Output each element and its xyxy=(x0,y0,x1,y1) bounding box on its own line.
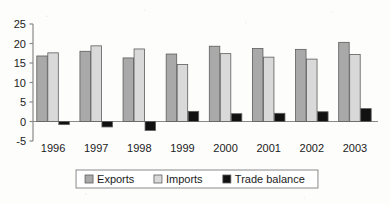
bar xyxy=(209,46,220,121)
x-axis: 19961997199819992000200120022003 xyxy=(41,142,367,154)
plot-area: -50510152025 199619971998199920002001200… xyxy=(0,0,390,204)
bar xyxy=(339,42,350,121)
x-axis-tick-label: 2001 xyxy=(256,142,280,154)
legend-label: Exports xyxy=(97,173,135,185)
chart-svg: -50510152025 199619971998199920002001200… xyxy=(0,0,390,204)
y-axis-tick-label: 5 xyxy=(20,96,26,108)
bar xyxy=(123,58,134,122)
legend-swatch xyxy=(223,175,231,183)
bar xyxy=(145,122,156,131)
bar xyxy=(307,59,318,121)
bar xyxy=(318,112,329,122)
y-axis: -50510152025 xyxy=(14,18,378,147)
bar xyxy=(177,65,188,122)
bar xyxy=(296,49,307,121)
bar xyxy=(350,54,361,121)
bars-group xyxy=(37,42,371,130)
bar xyxy=(102,122,113,127)
y-axis-tick-label: 0 xyxy=(20,116,26,128)
y-axis-tick-label: 25 xyxy=(14,18,26,30)
chart-legend: ExportsImportsTrade balance xyxy=(76,170,318,188)
bar xyxy=(361,109,372,122)
x-axis-tick-label: 2002 xyxy=(300,142,324,154)
bar xyxy=(220,54,231,122)
y-axis-tick-label: -5 xyxy=(16,135,26,147)
y-axis-tick-label: 20 xyxy=(14,38,26,50)
bar xyxy=(37,56,48,122)
x-axis-tick-label: 1999 xyxy=(170,142,194,154)
bar xyxy=(134,49,145,122)
bar xyxy=(80,51,91,121)
legend-label: Imports xyxy=(166,173,203,185)
bar xyxy=(263,57,274,121)
bar xyxy=(59,122,69,125)
bar-chart-figure: -50510152025 199619971998199920002001200… xyxy=(0,0,390,204)
x-axis-tick-label: 1996 xyxy=(41,142,65,154)
x-axis-tick-label: 1998 xyxy=(127,142,151,154)
legend-swatch xyxy=(154,175,162,183)
legend-label: Trade balance xyxy=(235,173,305,185)
bar xyxy=(252,49,263,122)
bar xyxy=(48,53,59,122)
y-axis-tick-label: 10 xyxy=(14,77,26,89)
bar xyxy=(231,114,242,122)
bar xyxy=(91,46,102,122)
bar xyxy=(188,111,199,121)
x-axis-tick-label: 2000 xyxy=(213,142,237,154)
legend-swatch xyxy=(85,175,93,183)
y-axis-tick-label: 15 xyxy=(14,57,26,69)
bar xyxy=(274,113,285,121)
x-axis-tick-label: 2003 xyxy=(343,142,367,154)
x-axis-tick-label: 1997 xyxy=(84,142,108,154)
bar xyxy=(166,54,177,121)
